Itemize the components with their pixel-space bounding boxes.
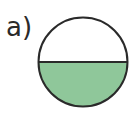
fraction-circle [0,0,136,116]
shaded-half [39,62,128,107]
